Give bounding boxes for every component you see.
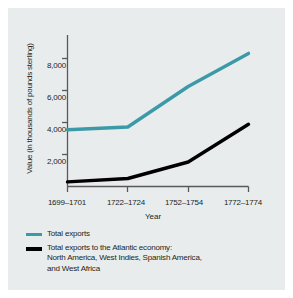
legend-label-line-1: Total exports to the Atlantic economy: <box>47 243 172 252</box>
legend-item-total-exports: Total exports <box>26 229 281 240</box>
legend-label-atlantic-economy: Total exports to the Atlantic economy: N… <box>47 243 202 275</box>
chart-legend: Total exports Total exports to the Atlan… <box>26 229 281 277</box>
legend-item-atlantic-economy: Total exports to the Atlantic economy: N… <box>26 243 281 275</box>
legend-label-line-2: North America, West Indies, Spanish Amer… <box>47 253 202 262</box>
teal-line-swatch <box>26 233 42 236</box>
line-chart-svg <box>8 8 285 223</box>
series-line-total-exports <box>68 53 249 129</box>
chart-figure: Value (in thousands of pounds sterling) … <box>8 8 285 290</box>
series-line-atlantic-economy <box>68 124 249 182</box>
legend-label-line-3: and West Africa <box>47 264 100 273</box>
legend-label-total-exports: Total exports <box>47 229 90 240</box>
black-line-swatch <box>26 247 42 251</box>
chart-plot-region: Value (in thousands of pounds sterling) … <box>8 8 285 223</box>
